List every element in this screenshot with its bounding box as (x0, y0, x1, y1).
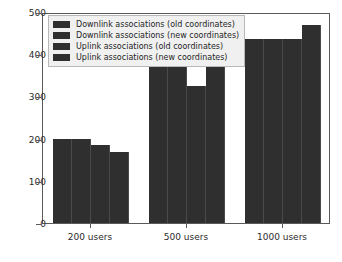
bar (168, 67, 187, 223)
x-axis-tick-mark (186, 224, 187, 228)
legend-item: Downlink associations (old coordinates) (53, 19, 239, 30)
bar (283, 39, 302, 223)
bar (149, 67, 168, 223)
legend-swatch-icon (53, 32, 70, 39)
bar (264, 39, 283, 223)
bar (72, 139, 91, 223)
bar (53, 139, 72, 223)
legend-swatch-icon (53, 54, 70, 61)
x-axis-tick-mark (282, 224, 283, 228)
legend-item-label: Uplink associations (old coordinates) (76, 41, 223, 52)
legend-swatch-icon (53, 21, 70, 28)
legend-item-label: Uplink associations (new coordinates) (76, 52, 227, 63)
y-axis-tick-mark (36, 140, 41, 141)
legend-item-label: Downlink associations (old coordinates) (76, 19, 235, 30)
legend-swatch-icon (53, 43, 70, 50)
x-axis-tick-label: 500 users (164, 232, 208, 242)
y-axis-tick-mark (36, 224, 41, 225)
legend-item-label: Downlink associations (new coordinates) (76, 30, 239, 41)
chart-legend: Downlink associations (old coordinates)D… (48, 15, 245, 67)
x-axis-tick-label: 200 users (68, 232, 112, 242)
bar-chart-figure: Downlink associations (old coordinates)D… (0, 0, 342, 262)
x-axis-tick-mark (90, 224, 91, 228)
x-axis-tick-label: 1000 users (257, 232, 307, 242)
y-axis-tick-mark (36, 182, 41, 183)
bar (302, 25, 321, 223)
y-axis-tick-mark (36, 97, 41, 98)
legend-item: Downlink associations (new coordinates) (53, 30, 239, 41)
bar (206, 67, 225, 223)
legend-item: Uplink associations (old coordinates) (53, 41, 239, 52)
bar (91, 145, 110, 223)
y-axis-tick-mark (36, 13, 41, 14)
legend-item: Uplink associations (new coordinates) (53, 52, 239, 63)
bar (245, 39, 264, 223)
y-axis-tick-mark (36, 55, 41, 56)
bar (110, 152, 129, 223)
bar (187, 86, 206, 223)
